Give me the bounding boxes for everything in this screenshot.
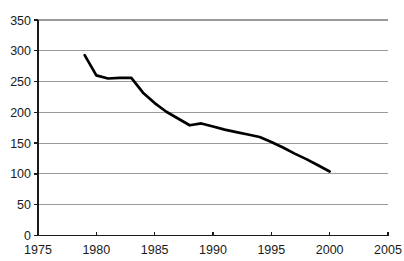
line-chart: 050100150200250300350 197519801985199019… — [0, 0, 404, 261]
y-tick-label-100: 100 — [10, 167, 31, 181]
x-tick-label-2005: 2005 — [374, 243, 402, 257]
x-tick-label-1990: 1990 — [199, 243, 227, 257]
x-tick-label-1975: 1975 — [24, 243, 52, 257]
y-tick-label-300: 300 — [10, 44, 31, 58]
x-tick-label-1995: 1995 — [257, 243, 285, 257]
y-tick-label-0: 0 — [24, 229, 31, 243]
x-tick-label-2000: 2000 — [316, 243, 344, 257]
series-line-1 — [85, 55, 330, 171]
y-tick-label-350: 350 — [10, 14, 31, 28]
y-tick-label-200: 200 — [10, 106, 31, 120]
y-tick-label-250: 250 — [10, 75, 31, 89]
y-tick-label-50: 50 — [17, 198, 31, 212]
data-series-group — [85, 55, 330, 171]
y-axis-tick-labels: 050100150200250300350 — [10, 14, 31, 244]
y-tick-label-150: 150 — [10, 137, 31, 151]
chart-canvas: 050100150200250300350 197519801985199019… — [0, 0, 404, 261]
x-tick-label-1980: 1980 — [82, 243, 110, 257]
gridlines-group — [38, 20, 388, 205]
x-tick-label-1985: 1985 — [141, 243, 169, 257]
x-axis-tick-labels: 1975198019851990199520002005 — [24, 243, 402, 257]
